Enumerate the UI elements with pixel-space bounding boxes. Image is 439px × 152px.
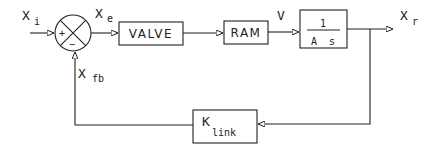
summing-junction: + − [55,15,91,51]
ram-label: RAM [231,26,262,40]
block-diagram: X i + − X e VALVE RAM V 1 A s X r K link… [0,0,439,152]
error-label-main: X [95,6,103,21]
error-label-sub: e [107,13,113,24]
input-label-main: X [22,8,30,23]
link-gain-main: K [202,114,210,129]
integrator-numerator: 1 [320,18,326,29]
feedback-label-sub: fb [92,73,104,84]
link-gain-sub: link [212,127,236,138]
feedback-arrow [75,52,193,125]
minus-sign: − [69,39,75,50]
input-label-sub: i [34,16,40,27]
valve-label: VALVE [129,27,173,41]
velocity-label: V [277,8,285,23]
integrator-denominator: A s [311,36,335,47]
output-label-main: X [400,8,408,23]
output-label-sub: r [412,16,418,27]
feedback-label-main: X [78,66,86,81]
plus-sign: + [59,28,65,39]
